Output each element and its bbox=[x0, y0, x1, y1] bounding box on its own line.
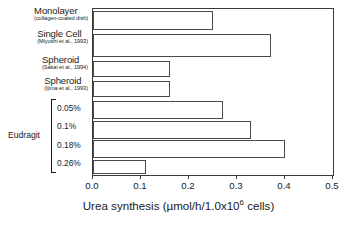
group-bracket bbox=[51, 99, 56, 173]
category-label-spheroid-ijima: Spheroid (Ijima et al., 1993) bbox=[44, 76, 88, 92]
x-axis-title: Urea synthesis (µmol/h/1.0x106 cells) bbox=[0, 199, 357, 212]
x-axis-tick-label: 0.4 bbox=[277, 180, 290, 191]
x-axis-tick bbox=[92, 175, 93, 179]
bar-single-cell bbox=[93, 34, 271, 57]
bar-eudragit-026 bbox=[93, 160, 146, 174]
x-axis-tick-label: 0.5 bbox=[325, 180, 338, 191]
bar-monolayer bbox=[93, 11, 213, 30]
x-axis-title-post: cells) bbox=[244, 199, 274, 212]
sub-label-eudragit-3: 0.26% bbox=[57, 158, 81, 168]
category-label-citation: (collagen-coated dish) bbox=[34, 16, 88, 22]
x-axis-title-pre: Urea synthesis (µmol/h/1.0x10 bbox=[83, 199, 240, 212]
x-axis-tick bbox=[284, 175, 285, 179]
x-axis-tick bbox=[236, 175, 237, 179]
bar-eudragit-005 bbox=[93, 101, 223, 119]
category-label-monolayer: Monolayer (collagen-coated dish) bbox=[34, 6, 88, 22]
bar-eudragit-01 bbox=[93, 121, 251, 139]
x-axis-tick bbox=[140, 175, 141, 179]
x-axis-tick-label: 0.3 bbox=[229, 180, 242, 191]
urea-synthesis-bar-chart: Monolayer (collagen-coated dish) Single … bbox=[0, 0, 357, 226]
plot-area bbox=[92, 8, 334, 176]
category-label-column: Monolayer (collagen-coated dish) Single … bbox=[0, 0, 92, 170]
bar-spheroid-sakai bbox=[93, 61, 170, 77]
x-axis-tick-label: 0.1 bbox=[133, 180, 146, 191]
group-label-eudragit: Eudragit bbox=[8, 130, 40, 140]
sub-label-eudragit-1: 0.1% bbox=[57, 121, 76, 131]
category-label-single-cell: Single Cell (Miyoshi et al., 1993) bbox=[37, 29, 88, 45]
bar-spheroid-ijima bbox=[93, 81, 170, 97]
x-axis-tick-label: 0.2 bbox=[181, 180, 194, 191]
category-label-citation: (Miyoshi et al., 1993) bbox=[37, 39, 88, 45]
bar-eudragit-018 bbox=[93, 140, 285, 158]
sub-label-eudragit-0: 0.05% bbox=[57, 103, 81, 113]
x-axis-tick-label: 0.0 bbox=[85, 180, 98, 191]
x-axis-tick bbox=[332, 175, 333, 179]
sub-label-eudragit-2: 0.18% bbox=[57, 140, 81, 150]
category-label-spheroid-sakai: Spheroid (Sakai et al., 1994) bbox=[42, 55, 88, 71]
x-axis: 0.00.10.20.30.40.5 bbox=[92, 175, 332, 197]
category-label-citation: (Ijima et al., 1993) bbox=[44, 86, 88, 92]
x-axis-tick bbox=[188, 175, 189, 179]
category-label-citation: (Sakai et al., 1994) bbox=[42, 65, 88, 71]
